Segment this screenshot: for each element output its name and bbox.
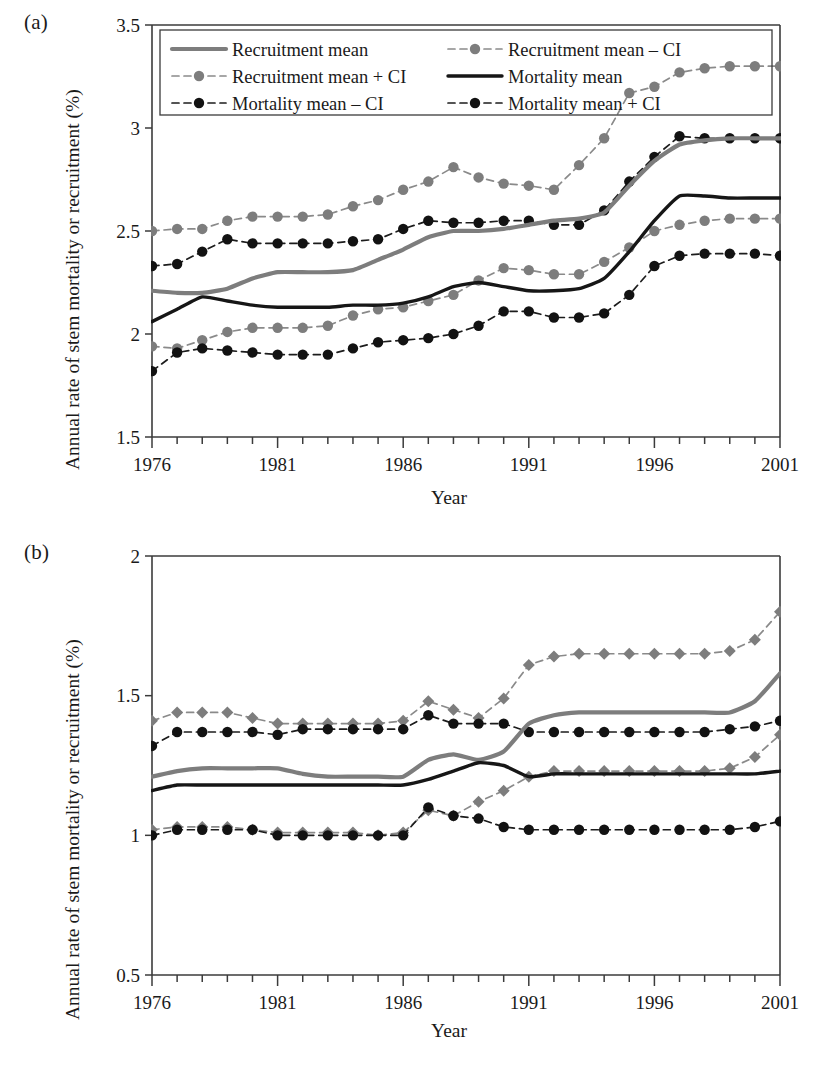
panel-a-plot: 1.522.533.5197619811986199119962001Recru…	[0, 0, 818, 520]
x-tick-label: 1976	[133, 454, 171, 475]
y-tick-label: 0.5	[116, 965, 140, 986]
legend-item-label: Recruitment mean	[232, 40, 368, 60]
x-tick-label: 1986	[384, 454, 422, 475]
x-tick-label: 2001	[761, 992, 799, 1013]
x-tick-label: 1981	[259, 992, 297, 1013]
series-mortality-mean	[152, 195, 780, 322]
x-tick-label: 2001	[761, 454, 799, 475]
x-tick-label: 1976	[133, 992, 171, 1013]
legend-item: Recruitment mean – CI	[448, 40, 681, 60]
series-mortality-mean-ci	[147, 248, 785, 376]
panel-b-plot: 0.511.52197619811986199119962001	[0, 520, 818, 1066]
x-tick-label: 1991	[510, 992, 548, 1013]
figure-root: (a) Annual rate of stem mortality or rec…	[0, 0, 818, 1066]
legend-item-label: Recruitment mean + CI	[232, 67, 406, 87]
y-tick-label: 2.5	[116, 221, 140, 242]
series-recruitment-mean	[152, 673, 780, 777]
x-tick-label: 1996	[635, 454, 673, 475]
legend-item-label: Mortality mean	[508, 67, 623, 87]
panel-a: (a) Annual rate of stem mortality or rec…	[0, 0, 818, 520]
legend-item-label: Recruitment mean – CI	[508, 40, 681, 60]
y-tick-label: 3	[131, 118, 141, 139]
y-tick-label: 1	[131, 825, 141, 846]
y-tick-label: 2	[131, 324, 141, 345]
x-tick-label: 1996	[635, 992, 673, 1013]
y-tick-label: 1.5	[116, 685, 140, 706]
series-recruitment-mean-ci	[147, 61, 785, 236]
series-recruitment-mean	[152, 138, 780, 293]
x-tick-label: 1986	[384, 992, 422, 1013]
series-mortality-mean-ci	[147, 710, 785, 751]
series-mortality-mean-ci	[147, 131, 785, 271]
y-tick-label: 2	[131, 546, 141, 567]
legend-item: Mortality mean – CI	[172, 94, 384, 114]
legend-item-label: Mortality mean + CI	[508, 94, 661, 114]
legend-item: Mortality mean	[448, 67, 623, 87]
legend-item: Recruitment mean	[172, 40, 368, 60]
y-tick-label: 3.5	[116, 15, 140, 36]
x-tick-label: 1981	[259, 454, 297, 475]
x-tick-label: 1991	[510, 454, 548, 475]
legend-item: Recruitment mean + CI	[172, 67, 406, 87]
legend-item: Mortality mean + CI	[448, 94, 661, 114]
y-tick-label: 1.5	[116, 427, 140, 448]
legend-item-label: Mortality mean – CI	[232, 94, 384, 114]
panel-b: (b) Annual rate of stem mortality or rec…	[0, 520, 818, 1066]
